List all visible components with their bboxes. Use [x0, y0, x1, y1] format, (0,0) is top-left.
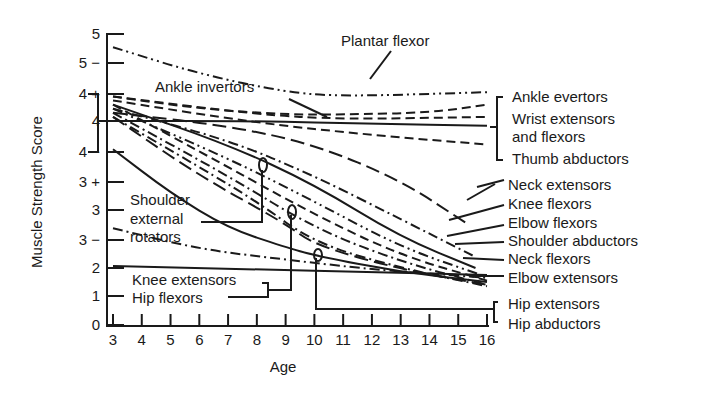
label-hip-flexors: Hip flexors: [132, 289, 203, 306]
x-tick-label: 7: [224, 331, 232, 348]
x-tick-label: 14: [421, 331, 438, 348]
label-knee-extensors: Knee extensors: [132, 271, 236, 288]
label-thumb-abductors: Thumb abductors: [512, 150, 629, 167]
label-elbow-extensors: Elbow extensors: [508, 269, 618, 286]
x-tick-label: 8: [253, 331, 261, 348]
label-hip-abductors: Hip abductors: [508, 315, 601, 332]
series-ankle-invertors: [113, 97, 487, 115]
muscle-strength-chart: 0123 −33 +4 −44 +5 −5 345678910111213141…: [0, 0, 703, 403]
label-neck-flexors: Neck flexors: [508, 250, 591, 267]
y-tick-label: 3 −: [79, 231, 101, 248]
x-tick-label: 3: [109, 331, 117, 348]
label-ankle-invertors: Ankle invertors: [155, 78, 254, 95]
label-elbow-flexors: Elbow flexors: [508, 214, 597, 231]
y-tick-label: 5 −: [79, 54, 101, 71]
label-shoulder-ext-1: Shoulder: [130, 191, 190, 208]
x-axis-title: Age: [270, 358, 297, 375]
label-neck-extensors: Neck extensors: [508, 176, 611, 193]
x-tick-label: 15: [450, 331, 467, 348]
label-knee-flexors: Knee flexors: [508, 195, 591, 212]
x-tick-label: 4: [138, 331, 146, 348]
y-tick-label: 3 +: [79, 173, 101, 190]
y-tick-label: 2: [92, 259, 100, 276]
label-shoulder-abductors: Shoulder abductors: [508, 232, 638, 249]
x-tick-label: 11: [335, 331, 351, 348]
label-plantar-flexor: Plantar flexor: [341, 32, 429, 49]
x-tick-label: 13: [392, 331, 409, 348]
x-tick-label: 6: [195, 331, 203, 348]
y-tick-label: 3: [92, 201, 100, 218]
y-tick-label: 5: [92, 25, 100, 42]
y-axis-ticks: 0123 −33 +4 −44 +5 −5: [79, 25, 124, 333]
y-axis-title: Muscle Strength Score: [28, 116, 45, 268]
x-axis-ticks: 345678910111213141516: [109, 314, 496, 348]
label-shoulder-ext-3: rotators: [130, 228, 181, 245]
x-tick-label: 16: [479, 331, 496, 348]
x-tick-label: 5: [166, 331, 174, 348]
y-tick-label: 1: [92, 287, 100, 304]
x-tick-label: 9: [281, 331, 289, 348]
label-hip-extensors: Hip extensors: [508, 295, 600, 312]
x-tick-label: 10: [306, 331, 323, 348]
series-labels: Plantar flexor Ankle invertors Ankle eve…: [130, 32, 638, 332]
label-wrist-1: Wrist extensors: [512, 110, 615, 127]
x-tick-label: 12: [364, 331, 381, 348]
label-wrist-2: and flexors: [512, 128, 585, 145]
label-ankle-evertors: Ankle evertors: [512, 88, 608, 105]
y-tick-label: 0: [92, 316, 100, 333]
label-shoulder-ext-2: external: [130, 210, 183, 227]
